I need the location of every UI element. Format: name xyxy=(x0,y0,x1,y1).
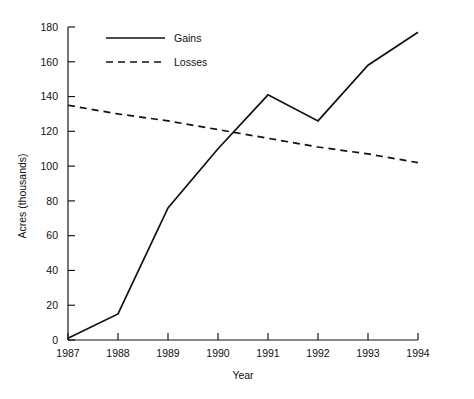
x-tick-label-1988: 1988 xyxy=(106,347,130,359)
legend-label-losses: Losses xyxy=(174,56,207,68)
x-axis-title: Year xyxy=(232,369,254,381)
y-tick-label-160: 160 xyxy=(40,56,58,68)
y-tick-label-100: 100 xyxy=(40,160,58,172)
x-tick-label-1990: 1990 xyxy=(206,347,230,359)
x-axis-tick-labels: 19871988198919901991199219931994 xyxy=(56,347,430,359)
y-tick-label-60: 60 xyxy=(46,229,58,241)
line-chart: 020406080100120140160180 198719881989199… xyxy=(0,0,474,399)
y-axis-tick-labels: 020406080100120140160180 xyxy=(40,21,58,346)
y-tick-label-40: 40 xyxy=(46,264,58,276)
x-axis-ticks xyxy=(68,333,418,340)
series-line-gains xyxy=(68,32,418,338)
legend-label-gains: Gains xyxy=(174,32,201,44)
y-axis-title: Acres (thousands) xyxy=(16,153,28,238)
y-tick-label-140: 140 xyxy=(40,90,58,102)
chart-legend: Gains Losses xyxy=(106,32,207,68)
series-layer xyxy=(68,32,418,338)
x-tick-label-1987: 1987 xyxy=(56,347,80,359)
y-tick-label-20: 20 xyxy=(46,299,58,311)
y-axis-ticks xyxy=(68,27,75,340)
x-tick-label-1993: 1993 xyxy=(356,347,380,359)
y-tick-label-0: 0 xyxy=(52,334,58,346)
x-tick-label-1989: 1989 xyxy=(156,347,180,359)
y-tick-label-180: 180 xyxy=(40,21,58,33)
y-tick-label-80: 80 xyxy=(46,195,58,207)
series-line-losses xyxy=(68,105,418,162)
x-tick-label-1992: 1992 xyxy=(306,347,330,359)
chart-canvas: 020406080100120140160180 198719881989199… xyxy=(0,0,474,399)
x-tick-label-1991: 1991 xyxy=(256,347,280,359)
y-tick-label-120: 120 xyxy=(40,125,58,137)
x-tick-label-1994: 1994 xyxy=(406,347,430,359)
